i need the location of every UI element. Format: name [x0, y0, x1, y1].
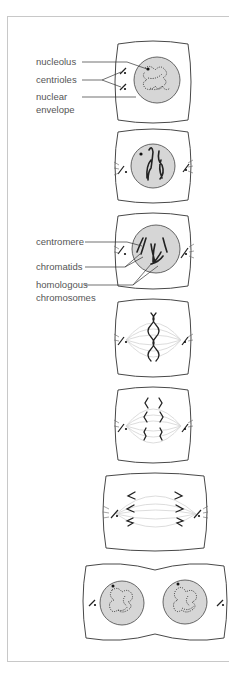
stage-interphase — [82, 41, 191, 123]
label-nuclear-envelope-2: envelope — [36, 104, 75, 116]
stage-telophase — [83, 564, 227, 641]
stage-early-anaphase — [114, 387, 193, 463]
stage-late-prophase — [85, 213, 194, 289]
label-centrioles: centrioles — [36, 74, 77, 86]
mitosis-diagram: .cell { fill:#fff; stroke:#333; stroke-w… — [0, 0, 229, 683]
label-homologous-chromosomes-1: homologous — [36, 279, 88, 291]
label-homologous-chromosomes-2: chromosomes — [36, 292, 96, 304]
stage-metaphase — [114, 299, 193, 377]
stage-late-anaphase — [103, 473, 208, 551]
label-chromatids: chromatids — [36, 261, 82, 273]
label-nucleolus: nucleolus — [36, 56, 76, 68]
label-centromere: centromere — [36, 236, 84, 248]
stage-early-prophase — [114, 129, 193, 203]
label-nuclear-envelope-1: nuclear — [36, 91, 67, 103]
